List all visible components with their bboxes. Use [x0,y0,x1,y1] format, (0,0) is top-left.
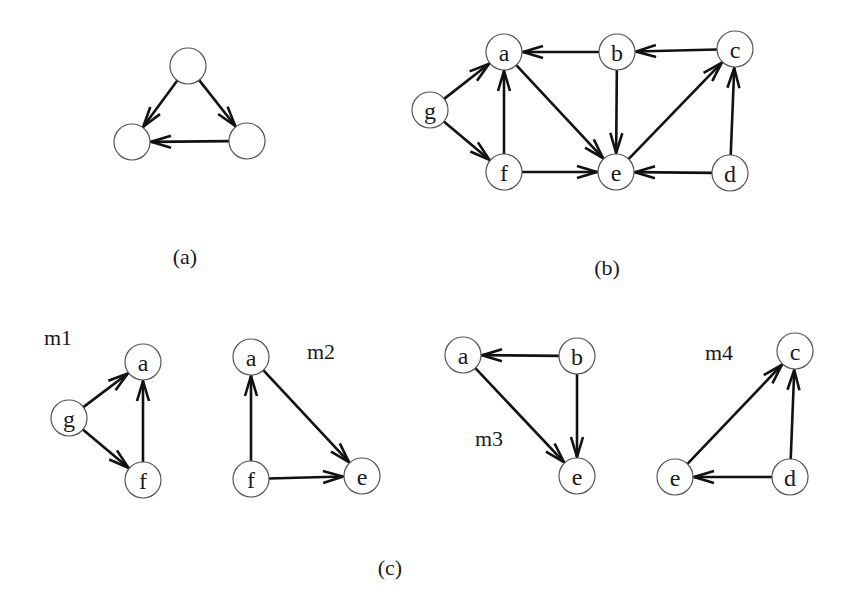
nodes-layer: abcgfedagfafeabeced [51,31,813,498]
node-b-e: e [598,154,634,190]
motif-label-m3: m3 [475,426,503,451]
node-m3-b: b [559,338,595,374]
node-m2-e: e [344,458,380,494]
node-b-a: a [486,34,522,70]
node-label: f [500,160,508,186]
panel-a-nodes [114,48,265,160]
node-m4-e: e [657,459,693,495]
node-label: c [730,37,741,63]
edge-b-g-to-a [444,64,489,99]
edge-b-d-to-c [727,68,739,155]
edge-b-g-to-f [444,122,490,160]
node-label: e [572,464,583,490]
edge-a-right-to-left [151,136,229,148]
edge-b-d-to-e [635,166,712,178]
motif-label-m1: m1 [44,325,72,350]
edge-m3-b-to-a [482,349,559,361]
node-label: g [424,98,436,124]
node-label: g [63,406,75,432]
motif-diagram-canvas: abcgfedagfafeabeced (a) (b) m1 m2 m3 m4 … [0,0,854,616]
panel-m1-edges [83,373,149,467]
node-m4-d: d [772,459,808,495]
node-label: f [247,467,255,493]
edge-m2-f-to-a [245,376,257,461]
node-label: e [670,465,681,491]
edge-b-f-to-a [498,71,510,154]
edge-m4-e-to-c [687,365,781,464]
node-m4-c: c [777,333,813,369]
edge-m1-g-to-a [83,373,127,407]
node-b-b: b [599,34,635,70]
panel-m1-nodes: agf [51,344,161,498]
node-b-g: g [412,92,448,128]
caption-b: (b) [594,255,620,280]
node-label: c [790,339,801,365]
node-circle [114,124,150,160]
node-m1-f: f [125,462,161,498]
node-label: a [458,343,469,369]
node-label: a [246,345,257,371]
edge-m4-d-to-c [787,370,799,459]
edge-m2-a-to-e [263,370,349,462]
node-label: a [138,350,149,376]
node-m2-a: a [233,339,269,375]
edge-b-f-to-e [522,166,597,178]
node-label: b [611,40,623,66]
node-b-d: d [712,155,748,191]
node-b-c: c [717,31,753,67]
edge-m3-b-to-e [571,374,583,457]
edge-b-c-to-b [636,45,717,57]
edge-b-b-to-a [523,46,599,58]
edge-b-b-to-e [610,70,622,153]
caption-a: (a) [173,244,197,269]
panel-a-edges [143,80,235,148]
node-m3-a: a [445,337,481,373]
node-label: e [611,160,622,186]
edge-a-top-to-right [199,80,235,126]
edge-b-a-to-e [516,65,603,158]
edge-m4-d-to-e [694,471,772,483]
node-m1-g: g [51,400,87,436]
node-m1-a: a [125,344,161,380]
panel-b-edges [444,45,740,178]
caption-c: (c) [378,555,402,580]
node-a-top [170,48,206,84]
node-label: a [499,40,510,66]
edge-m1-f-to-a [137,381,149,462]
node-label: d [784,465,796,491]
node-m2-f: f [233,461,269,497]
node-label: e [357,464,368,490]
node-b-f: f [486,154,522,190]
edge-m2-f-to-e [269,471,343,483]
node-label: d [724,161,736,187]
edge-b-e-to-c [629,63,722,159]
motif-label-m4: m4 [705,340,733,365]
motif-label-m2: m2 [307,339,335,364]
node-label: f [139,468,147,494]
edge-m1-g-to-f [83,430,129,468]
node-circle [229,123,265,159]
node-a-left [114,124,150,160]
node-a-right [229,123,265,159]
edge-a-top-to-left [143,80,177,126]
labels-layer: (a) (b) m1 m2 m3 m4 (c) [44,244,733,580]
node-circle [170,48,206,84]
node-label: b [571,344,583,370]
node-m3-e: e [559,458,595,494]
